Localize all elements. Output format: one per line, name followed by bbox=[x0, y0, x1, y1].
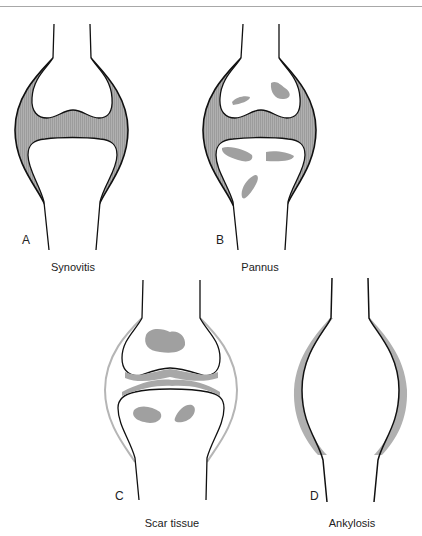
panel-a-synovitis-joint bbox=[15, 24, 128, 250]
panel-d-caption: Ankylosis bbox=[292, 517, 412, 529]
panel-b-pannus-joint bbox=[203, 24, 316, 250]
panel-c-scar-tissue-joint bbox=[105, 280, 237, 500]
panel-c-caption: Scar tissue bbox=[112, 517, 232, 529]
panel-c-letter: C bbox=[115, 489, 124, 503]
panel-b-letter: B bbox=[216, 233, 224, 247]
panel-a-letter: A bbox=[22, 233, 30, 247]
panel-a-caption: Synovitis bbox=[13, 261, 133, 273]
panel-d-ankylosis-joint bbox=[294, 278, 407, 502]
panel-d-letter: D bbox=[310, 489, 319, 503]
panel-b-caption: Pannus bbox=[200, 261, 320, 273]
